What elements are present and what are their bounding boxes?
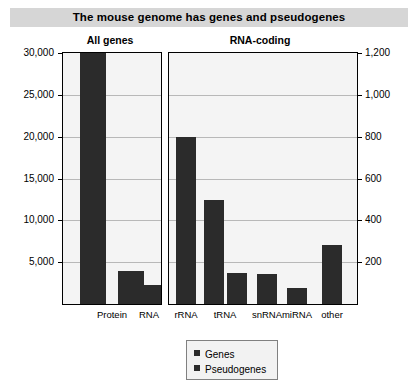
figure-title-band: The mouse genome has genes and pseudogen…: [10, 8, 408, 27]
bar-trna-genes: [204, 200, 224, 304]
bar-rna-genes: [136, 285, 162, 304]
y-tick-label: 800: [365, 131, 415, 142]
y-tick-label: 25,000: [4, 89, 54, 100]
legend-label-genes: Genes: [205, 349, 234, 360]
bar-mirna-genes: [287, 288, 307, 304]
bar-trna-pseudogenes: [227, 273, 247, 304]
gridline: [169, 220, 357, 221]
y-tick-label: 600: [365, 173, 415, 184]
y-tick-label: 1,200: [365, 47, 415, 58]
gridline: [63, 262, 161, 263]
y-tick: [58, 95, 62, 96]
bar-snrna-genes: [257, 274, 277, 304]
gridline: [63, 179, 161, 180]
y-tick: [58, 262, 62, 263]
plot-area-all-genes: [62, 52, 162, 305]
y-tick-label: 1,000: [365, 89, 415, 100]
legend-swatch-genes: [194, 350, 200, 356]
y-tick: [58, 137, 62, 138]
gridline: [63, 95, 161, 96]
y-tick-label: 15,000: [4, 173, 54, 184]
y-tick: [358, 179, 362, 180]
legend-swatch-pseudogenes: [194, 365, 200, 371]
gridline: [169, 137, 357, 138]
y-tick-label: 20,000: [4, 131, 54, 142]
legend-item-genes: Genes: [194, 346, 234, 361]
legend-item-pseudogenes: Pseudogenes: [194, 361, 266, 376]
gridline: [169, 95, 357, 96]
gridline: [169, 179, 357, 180]
y-tick-label: 400: [365, 214, 415, 225]
y-tick-label: 5,000: [4, 256, 54, 267]
bar-protein-genes: [80, 53, 106, 304]
chart-legend: Genes Pseudogenes: [186, 340, 278, 380]
y-tick: [58, 53, 62, 54]
y-tick: [58, 179, 62, 180]
panel-header-all-genes: All genes: [55, 34, 165, 46]
y-tick: [358, 95, 362, 96]
y-tick: [358, 53, 362, 54]
y-tick-label: 10,000: [4, 214, 54, 225]
gridline: [63, 137, 161, 138]
x-category-label-other: other: [302, 309, 362, 320]
chart-figure: The mouse genome has genes and pseudogen…: [0, 0, 418, 392]
y-tick-label: 30,000: [4, 47, 54, 58]
figure-title: The mouse genome has genes and pseudogen…: [10, 8, 408, 27]
legend-label-pseudogenes: Pseudogenes: [205, 364, 266, 375]
y-tick: [58, 220, 62, 221]
y-tick: [358, 137, 362, 138]
y-tick-label: 200: [365, 256, 415, 267]
bar-other-genes: [322, 245, 342, 304]
gridline: [63, 220, 161, 221]
panel-header-rna-coding: RNA-coding: [160, 34, 360, 46]
y-tick: [358, 262, 362, 263]
y-tick: [358, 220, 362, 221]
bar-rrna-genes: [176, 137, 196, 304]
plot-area-rna-coding: [168, 52, 358, 305]
